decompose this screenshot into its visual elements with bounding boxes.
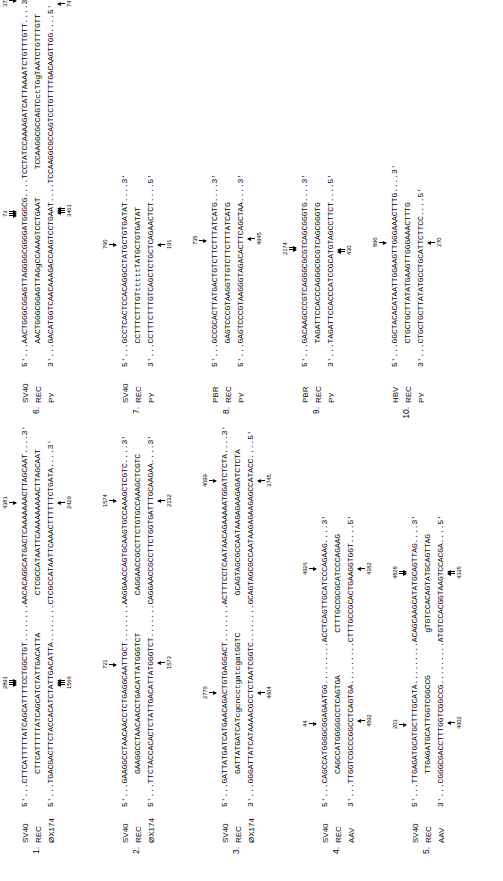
sequence-name: PY [415, 367, 428, 403]
block-sequences: 28914381 5'...CTTCATTTTTATCAGCATTTTCCTGG… [18, 426, 57, 807]
marker-arrow-group [58, 1, 66, 7]
alignment-block: 8. PBR REC PY 735 5'...GCCGCACTTATGACTGT… [208, 174, 248, 433]
marker-arrow-down-icon [289, 247, 296, 248]
coordinate-marker: 3461 [58, 204, 73, 217]
marker-arrow-group [428, 237, 436, 247]
marker-arrow-group [9, 0, 17, 7]
sequence-name: REC [32, 367, 45, 403]
coordinate-number: 203 [392, 719, 399, 729]
marker-arrow-group [399, 566, 407, 579]
sequence-name: ØX174 [245, 807, 258, 843]
sequence-row: 5'...TGACGACTTCTACCACATCTATTGACATTA.....… [44, 426, 57, 807]
coordinate-marker: 721 [102, 659, 117, 669]
block-sequences: 7211574 5'...GAAGGCCTAACAACCTCTGAGGCAATT… [118, 435, 157, 807]
coordinate-number: 2429 [66, 496, 73, 509]
marker-arrow-group [358, 562, 366, 575]
sequence-name: REC [402, 367, 415, 403]
sequence-row: TAGATTCCACCCAGGGCGCGTCAGCGGGTG [311, 174, 324, 367]
marker-arrow-down-icon [109, 244, 116, 245]
sequence-name: SV40 [119, 367, 132, 403]
marker-arrow-group [9, 210, 17, 217]
alignment-block: 3. SV40 REC ØX174 27764099 5'...GATTATGA… [218, 426, 258, 873]
marker-arrow-down-icon [9, 0, 16, 1]
marker-arrow-group [109, 494, 117, 507]
coordinate-marker: 4602 [448, 716, 463, 729]
block-sequences: 27764099 5'...GATTATGATCATGAACAGACTGTGAG… [218, 426, 257, 807]
marker-arrow-up-icon [58, 208, 65, 209]
sequence-name: PY [325, 367, 338, 403]
coordinate-number: 721 [102, 659, 109, 669]
marker-arrow-group [258, 686, 266, 699]
marker-arrow-group [358, 714, 366, 727]
block-sequences: 444926 5'...CAGCCATGGGGCGGAGAATGG.......… [318, 515, 357, 807]
marker-arrow-down-icon [309, 723, 316, 724]
sequence-name: SV40 [119, 807, 132, 843]
marker-arrow-group [309, 562, 317, 575]
coordinate-marker: 4592 [358, 714, 373, 727]
marker-arrow-up-icon [428, 242, 435, 243]
marker-arrow-group [58, 676, 66, 689]
coordinate-marker: 44 [302, 721, 317, 727]
marker-arrow-down-icon [109, 500, 116, 501]
marker-arrow-down-icon [9, 680, 16, 681]
marker-arrow-up-icon [338, 249, 345, 250]
coordinate-number: 3461 [66, 204, 73, 217]
coordinate-marker: 4828 [392, 566, 407, 579]
sequence-name: ØX174 [45, 807, 58, 843]
block-index: 8. [208, 403, 231, 433]
sequence-name: SV40 [219, 807, 232, 843]
sequence-name: REC [312, 367, 325, 403]
coordinate-number: 44 [302, 721, 309, 727]
block-sequence-names: PBR REC PY [298, 367, 338, 403]
sequence-name: SV40 [19, 367, 32, 403]
coordinate-marker: 4604 [258, 686, 273, 699]
sequence-row: 3'...GGGATTATCATAAAACGCCTCTAATCGGTC.....… [244, 426, 257, 807]
sequence-row: 3'...CTGCTGCTTATATGCCTGCATTCTTCC....5' [414, 165, 427, 367]
sequence-name: SV40 [19, 807, 32, 843]
sequence-name: REC [422, 807, 435, 843]
marker-arrow-down-icon [379, 242, 386, 243]
block-sequences: 896 5'...GGCTACACATAATTGGAAGTTGGGAAACTTT… [388, 165, 427, 367]
sequence-row: CTTCATTTTTATCAGCATCTATTGACATTA CTCGCCATA… [31, 426, 44, 807]
sequence-name: REC [132, 367, 145, 403]
marker-arrow-group [448, 566, 456, 579]
marker-arrow-group [309, 721, 317, 727]
sequence-row: 5'...AACTGGGCGGAGTTAGGGGCGGGGATGGGCG....… [18, 0, 31, 367]
marker-arrow-group [379, 237, 387, 247]
coordinate-marker: 1566 [58, 676, 73, 689]
alignment-block: 1. SV40 REC ØX174 28914381 5'...CTTCATTT… [18, 426, 58, 873]
block-sequence-names: PBR REC PY [208, 367, 248, 403]
coordinate-marker: 74 [58, 1, 73, 7]
coordinate-number: 74 [66, 1, 73, 7]
coordinate-number: 1566 [66, 676, 73, 689]
marker-arrow-down-icon [209, 480, 216, 481]
sequence-row: 5'...GGCTACACATAATTGGAAGTTGGGAAACTTTG...… [388, 165, 401, 367]
block-sequence-names: HBV REC PY [388, 367, 428, 403]
figure-rotation-wrapper: 1. SV40 REC ØX174 28914381 5'...CTTCATTT… [0, 0, 503, 881]
coordinate-number: 4926 [302, 562, 309, 575]
marker-arrow-down-icon [209, 692, 216, 693]
marker-arrow-down-icon [109, 664, 116, 665]
coordinate-number: 4945 [256, 232, 263, 245]
marker-arrow-up-icon [258, 692, 265, 693]
sequence-name: PBR [299, 367, 312, 403]
coordinate-number: 4604 [266, 686, 273, 699]
sequence-row: 5'...TTGAGATGCATGCTTTGCATA.........ACAGC… [408, 515, 421, 807]
sequence-row: TTGAGATGCATTGGTCGGCCG gTGTCCACAGTATGCAGT… [421, 515, 434, 807]
sequence-name: PY [145, 367, 158, 403]
sequence-name: PY [235, 367, 248, 403]
sequence-row: 5'...GATTATGATCATGAACAGACTGTGAGGACT.....… [218, 426, 231, 807]
coordinate-marker: 4945 [248, 232, 263, 245]
coordinate-number: 2776 [202, 686, 209, 699]
coordinate-marker: 4335 [448, 566, 463, 579]
block-index: 9. [298, 403, 321, 433]
sequence-row: 5'...CAGCCATGGGGCGGAGAATGG.........ACCTC… [318, 515, 331, 807]
coordinate-marker: 1573 [158, 656, 173, 669]
marker-arrow-up-icon [448, 571, 455, 572]
sequence-row: 5'...TTCTACCACACTCTATTGACATTATGGGTCT....… [144, 435, 157, 807]
marker-arrow-group [448, 716, 456, 729]
marker-arrow-group [9, 676, 17, 689]
alignment-block: 7. SV40 REC PY 760 5'...GCCTCACTCCACAGGC… [118, 174, 158, 433]
coordinate-marker: 2891 [2, 676, 17, 689]
sequence-row: CAGCCATGGGGGCCTCAGTGA CTTTGCCGCGCATCCCAG… [331, 515, 344, 807]
